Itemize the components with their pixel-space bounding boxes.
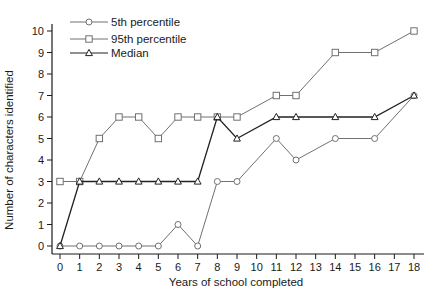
x-tick-label: 4 [136, 261, 142, 273]
x-tick-label: 9 [234, 261, 240, 273]
data-point [135, 114, 141, 120]
x-tick-label: 7 [195, 261, 201, 273]
x-tick-label: 1 [77, 261, 83, 273]
data-point [175, 114, 181, 120]
data-point [234, 114, 240, 120]
data-point [96, 135, 102, 141]
legend-item: Median [70, 47, 149, 59]
x-tick-label: 11 [271, 261, 282, 273]
data-point [57, 178, 63, 184]
data-point [332, 136, 338, 142]
y-tick-label: 9 [38, 47, 44, 59]
y-tick-label: 2 [38, 197, 44, 209]
x-tick-label: 14 [329, 261, 341, 273]
y-tick-label: 10 [32, 25, 44, 37]
data-point [155, 243, 161, 249]
data-point [332, 49, 338, 55]
data-point [116, 114, 122, 120]
data-point [293, 92, 299, 98]
x-tick-label: 12 [290, 261, 302, 273]
x-tick-label: 2 [96, 261, 102, 273]
y-tick-label: 5 [38, 133, 44, 145]
x-tick-label: 16 [369, 261, 381, 273]
legend: 5th percentile95th percentileMedian [70, 16, 186, 59]
x-tick-label: 3 [116, 261, 122, 273]
legend-label: 95th percentile [111, 33, 186, 45]
y-tick-label: 8 [38, 68, 44, 80]
line-chart: 0123456789101112131415161718012345678910… [0, 0, 436, 299]
x-tick-label: 15 [349, 261, 361, 273]
x-axis-label: Years of school completed [169, 276, 303, 288]
y-tick-label: 1 [38, 219, 44, 231]
y-tick-label: 0 [38, 240, 44, 252]
axes: 0123456789101112131415161718012345678910 [32, 24, 424, 273]
data-point [372, 136, 378, 142]
data-point [155, 135, 161, 141]
data-point [273, 136, 279, 142]
data-point [293, 157, 299, 163]
y-tick-label: 3 [38, 176, 44, 188]
x-tick-label: 0 [57, 261, 63, 273]
x-tick-label: 18 [408, 261, 420, 273]
data-point [77, 243, 83, 249]
data-point [273, 92, 279, 98]
data-point [136, 243, 142, 249]
data-point [194, 114, 200, 120]
legend-marker [86, 36, 92, 42]
y-tick-label: 4 [38, 154, 44, 166]
data-point [371, 49, 377, 55]
y-tick-label: 7 [38, 90, 44, 102]
legend-marker [86, 19, 92, 25]
data-point [214, 179, 220, 185]
data-point [96, 243, 102, 249]
legend-item: 95th percentile [70, 33, 186, 45]
series-layer [57, 28, 418, 249]
y-tick-label: 6 [38, 111, 44, 123]
data-point [234, 179, 240, 185]
legend-label: 5th percentile [111, 16, 180, 28]
x-tick-label: 10 [251, 261, 263, 273]
data-point [116, 243, 122, 249]
data-point [195, 243, 201, 249]
data-point [175, 222, 181, 228]
x-tick-label: 5 [155, 261, 161, 273]
x-tick-label: 6 [175, 261, 181, 273]
x-tick-label: 8 [214, 261, 220, 273]
data-point [411, 28, 417, 34]
legend-item: 5th percentile [70, 16, 180, 28]
legend-label: Median [111, 47, 149, 59]
x-tick-label: 17 [388, 261, 400, 273]
y-axis-label: Number of characters identified [3, 70, 15, 230]
x-tick-label: 13 [310, 261, 322, 273]
